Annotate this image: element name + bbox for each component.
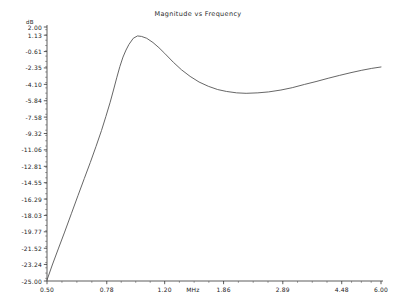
y-tick-label: 2.00 — [28, 24, 42, 31]
x-tick-label: 1.86 — [210, 286, 238, 293]
y-tick-label: -11.06 — [21, 146, 42, 153]
y-tick-label: -0.61 — [25, 48, 42, 55]
x-tick-label: 1.20 — [151, 286, 179, 293]
y-tick-label: -16.29 — [21, 196, 42, 203]
y-tick-label: -21.52 — [21, 245, 42, 252]
y-tick-label: -9.32 — [25, 130, 42, 137]
y-tick-label: 1.13 — [28, 32, 42, 39]
y-tick-label: -7.58 — [25, 114, 42, 121]
x-tick-label: 0.78 — [93, 286, 121, 293]
x-axis — [47, 281, 383, 284]
plot-svg — [0, 0, 396, 308]
x-tick-label: 2.89 — [269, 286, 297, 293]
y-tick-label: -2.35 — [25, 64, 42, 71]
data-series-group — [47, 36, 381, 280]
x-tick-label: 0.50 — [33, 286, 61, 293]
y-tick-label: -4.10 — [25, 81, 42, 88]
y-tick-label: -18.03 — [21, 212, 42, 219]
y-tick-label: -19.77 — [21, 228, 42, 235]
y-axis — [44, 25, 47, 281]
y-tick-label: -25.00 — [21, 278, 42, 285]
chart-root: Magnitude vs Frequency dB MHz 2.001.13-0… — [0, 0, 396, 308]
y-tick-label: -14.55 — [21, 179, 42, 186]
plot-area — [0, 0, 396, 308]
y-tick-label: -12.81 — [21, 163, 42, 170]
x-tick-label: 6.00 — [367, 286, 395, 293]
x-tick-label: 4.48 — [328, 286, 356, 293]
y-tick-label: -5.84 — [25, 97, 42, 104]
y-tick-label: -23.24 — [21, 261, 42, 268]
